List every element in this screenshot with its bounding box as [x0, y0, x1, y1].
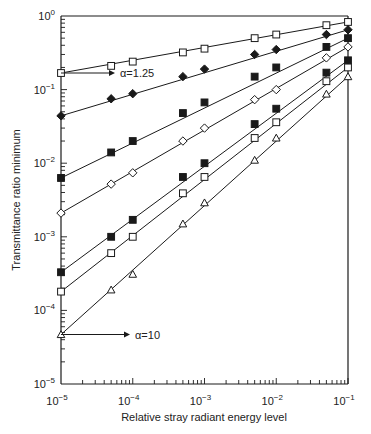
- x-axis-title: Relative stray radiant energy level: [121, 411, 287, 423]
- open-diamond-marker: [344, 43, 352, 51]
- open-square-marker: [129, 58, 136, 65]
- open-square-marker: [201, 174, 208, 181]
- y-axis-title: Transmittance ratio minimum: [10, 129, 22, 270]
- filled-square-marker: [273, 105, 280, 112]
- alpha-10-label: α=10: [135, 329, 160, 341]
- y-tick-label: 10−3: [34, 229, 56, 243]
- open-diamond-marker: [107, 180, 115, 188]
- x-tick-label: 10−4: [118, 393, 140, 407]
- y-tick-label: 100: [38, 8, 55, 22]
- open-triangle-marker: [201, 199, 209, 206]
- annotations: α=1.25α=10: [61, 67, 160, 341]
- filled-square-marker: [108, 149, 115, 156]
- alpha-1-25-label: α=1.25: [120, 67, 154, 79]
- filled-square-marker: [201, 160, 208, 167]
- filled-diamond-marker: [344, 26, 352, 34]
- open-square-marker: [180, 49, 187, 56]
- filled-square-marker: [345, 57, 352, 64]
- alpha-10-arrowhead-icon: [124, 332, 130, 338]
- x-tick-label: 10−2: [262, 393, 284, 407]
- tick-labels: 10−510−410−310−210−110010−110−210−310−41…: [34, 8, 356, 407]
- open-square-marker: [129, 233, 136, 240]
- open-square-marker: [180, 190, 187, 197]
- open-square-marker: [58, 288, 65, 295]
- open-diamond-marker: [57, 209, 65, 217]
- open-square-marker: [108, 62, 115, 69]
- filled-square-marker: [180, 110, 187, 117]
- filled-square-marker: [58, 269, 65, 276]
- y-tick-label: 10−2: [34, 155, 56, 169]
- open-square-marker: [201, 45, 208, 52]
- filled-square-marker: [345, 35, 352, 42]
- open-triangle-marker: [344, 73, 352, 80]
- filled-square-marker: [129, 138, 136, 145]
- open-square-marker: [345, 19, 352, 26]
- y-tick-label: 10−4: [34, 302, 56, 316]
- filled-square-marker: [273, 64, 280, 71]
- open-triangle-marker: [179, 220, 187, 227]
- alpha-1-25-arrowhead-icon: [109, 70, 115, 76]
- open-square-marker: [323, 22, 330, 29]
- filled-diamond-marker: [250, 50, 258, 58]
- filled-square-marker: [251, 121, 258, 128]
- filled-square-marker: [108, 233, 115, 240]
- filled-diamond-marker: [179, 72, 187, 80]
- filled-square-marker: [323, 69, 330, 76]
- open-square-marker: [108, 250, 115, 257]
- filled-diamond-marker: [129, 89, 137, 97]
- filled-square-marker: [251, 73, 258, 80]
- filled-square-marker: [129, 216, 136, 223]
- open-square-marker: [273, 119, 280, 126]
- filled-square-marker: [201, 99, 208, 106]
- open-square-marker: [273, 31, 280, 38]
- series-markers: [57, 19, 352, 338]
- filled-square-marker: [58, 175, 65, 182]
- filled-square-marker: [323, 44, 330, 51]
- open-square-marker: [251, 35, 258, 42]
- y-tick-label: 10−1: [34, 82, 56, 96]
- open-triangle-marker: [251, 156, 259, 163]
- x-tick-label: 10−5: [46, 393, 68, 407]
- y-tick-label: 10−5: [34, 376, 56, 390]
- open-diamond-marker: [200, 124, 208, 132]
- open-square-marker: [251, 135, 258, 142]
- series-line: [61, 38, 348, 178]
- x-tick-label: 10−1: [333, 393, 355, 407]
- chart: 10−510−410−310−210−110010−110−210−310−41…: [0, 0, 371, 434]
- open-square-marker: [345, 64, 352, 71]
- x-tick-label: 10−3: [190, 393, 212, 407]
- open-square-marker: [323, 78, 330, 85]
- open-triangle-marker: [129, 270, 137, 277]
- filled-square-marker: [180, 174, 187, 181]
- open-triangle-marker: [272, 134, 280, 141]
